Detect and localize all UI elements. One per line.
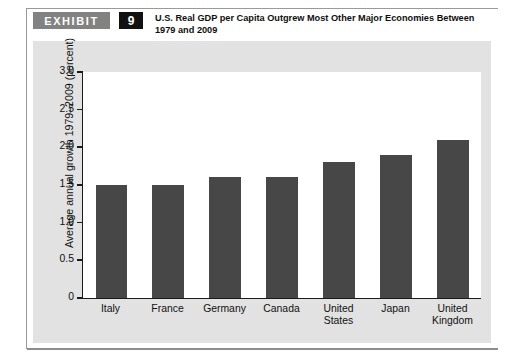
bars-layer [83,72,481,298]
bar-slot [197,72,254,298]
bar [209,177,241,298]
exhibit-number-badge: 9 [119,12,143,29]
x-axis-label: Canada [253,303,310,328]
bar [437,140,469,298]
bar-slot [254,72,311,298]
bar-slot [310,72,367,298]
bar [96,185,128,298]
x-axis-label: Italy [82,303,139,328]
y-tick-label: 0 [68,291,74,302]
x-axis-label: Germany [196,303,253,328]
y-tick-label: 1.5 [60,178,74,189]
bar [323,162,355,298]
bar [152,185,184,298]
frame-bottom-rule [27,348,498,350]
bar-slot [140,72,197,298]
bar-slot [367,72,424,298]
x-axis-label: United States [310,303,367,328]
frame-left-rule [26,8,27,349]
exhibit-title: U.S. Real GDP per Capita Outgrew Most Ot… [155,12,485,36]
exhibit-header: EXHIBIT 9 U.S. Real GDP per Capita Outgr… [33,12,489,39]
exhibit-figure: EXHIBIT 9 U.S. Real GDP per Capita Outgr… [0,0,516,357]
x-axis-label: France [139,303,196,328]
x-axis-label: Japan [367,303,424,328]
y-tick-label: 1.0 [60,216,74,227]
y-tick-label: 0.5 [60,253,74,264]
y-tick-label: 2.0 [60,140,74,151]
frame-top-rule [26,8,498,9]
x-axis-labels: ItalyFranceGermanyCanadaUnited StatesJap… [82,303,481,328]
exhibit-badge: EXHIBIT [33,12,110,29]
bar [266,177,298,298]
y-tick-label: 3.0 [60,65,74,76]
bar-slot [424,72,481,298]
y-tick-label: 2.5 [60,103,74,114]
x-axis-label: United Kingdom [424,303,481,328]
bar [380,155,412,298]
chart-panel: Average annual growth 1979–2009 (percent… [33,41,491,343]
plot-area: 3.02.52.01.51.00.50 [82,72,481,299]
bar-slot [83,72,140,298]
